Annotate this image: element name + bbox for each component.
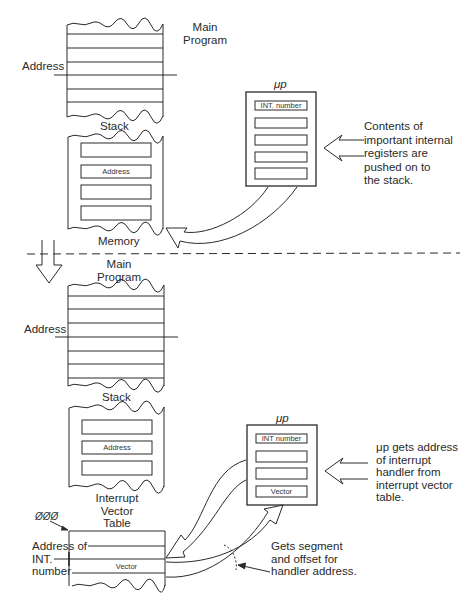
top-push-arrow	[324, 135, 364, 161]
bottom-get-address-note: μp gets address of interrupt handler fro…	[376, 441, 458, 504]
top-memory-label: Memory	[98, 235, 140, 248]
top-mp-int-number-register: INT. number	[255, 101, 307, 110]
bottom-stack-address-slot: Address	[82, 443, 152, 452]
top-main-program-block	[54, 18, 177, 123]
bottom-get-arrow	[325, 458, 368, 484]
top-stack-address-slot: Address	[81, 167, 151, 176]
segment-offset-note: Gets segment and offset for handler addr…	[271, 540, 357, 578]
ivt-origin-label: ØØØ	[35, 510, 58, 523]
bottom-address-label: Address	[24, 323, 66, 336]
ivt-label: Interrupt Vector Table	[95, 492, 139, 530]
diagram-canvas	[0, 0, 475, 608]
bottom-main-program-label: Main Program	[97, 258, 141, 284]
top-address-label: Address	[22, 60, 64, 73]
top-stack-block	[68, 130, 163, 235]
bottom-mp-vector-register: Vector	[256, 487, 307, 496]
bottom-main-program-block	[55, 279, 178, 392]
bottom-lookup-arrow	[166, 460, 246, 558]
section-divider	[27, 253, 460, 254]
bottom-vector-arrow	[166, 505, 283, 577]
bottom-mp-int-number-register: INT number	[256, 434, 307, 443]
top-stack-label: Stack	[100, 120, 129, 133]
bottom-stack-label: Stack	[102, 391, 131, 404]
top-curved-arrow	[166, 187, 297, 248]
top-main-program-label: Main Program	[183, 21, 227, 47]
down-arrow	[36, 240, 62, 283]
bottom-mp-label: μp	[276, 412, 289, 425]
top-push-note: Contents of important internal registers…	[364, 120, 453, 188]
ivt-vector-slot: Vector	[88, 562, 165, 571]
top-mp-label: μp	[274, 78, 287, 91]
ivt-address-of-int-label: Address of INT. number	[32, 540, 87, 578]
